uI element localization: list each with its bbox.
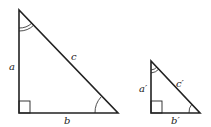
small-triangle: a′ c′ b′ bbox=[139, 61, 200, 126]
label-b: b bbox=[64, 115, 70, 126]
label-a-prime: a′ bbox=[139, 83, 148, 94]
large-triangle: a c b bbox=[9, 10, 118, 126]
label-b-prime: b′ bbox=[171, 115, 180, 126]
label-c: c bbox=[71, 51, 77, 62]
right-angle-marker bbox=[19, 101, 30, 113]
single-angle-arc bbox=[189, 104, 192, 113]
label-c-prime: c′ bbox=[176, 78, 185, 89]
right-angle-marker bbox=[151, 101, 162, 113]
double-angle-arc bbox=[19, 23, 32, 28]
label-a: a bbox=[9, 61, 15, 72]
single-angle-arc bbox=[95, 97, 101, 113]
similar-triangles-diagram: a c b a′ c′ b′ bbox=[0, 0, 211, 127]
double-angle-arc bbox=[151, 67, 157, 70]
